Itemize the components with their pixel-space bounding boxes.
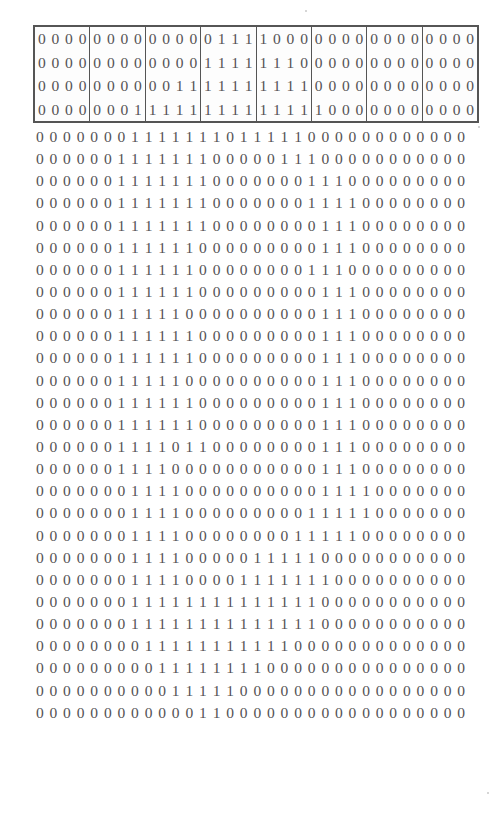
bit-cell: 0 xyxy=(87,480,101,502)
bit-cell: 0 xyxy=(373,126,387,148)
bit-cell: 0 xyxy=(87,680,101,702)
bit-cell: 0 xyxy=(87,303,101,325)
bit-cell: 0 xyxy=(414,414,428,436)
bit-cell: 1 xyxy=(210,680,224,702)
bit-cell: 0 xyxy=(305,480,319,502)
bit-cell: 0 xyxy=(60,680,74,702)
bit-cell: 0 xyxy=(196,281,210,303)
bit-row: 00000011111000000000011100000000 xyxy=(33,370,468,392)
bit-cell: 1 xyxy=(318,259,332,281)
bit-group-7: 0000000000000000 xyxy=(423,27,477,121)
bit-row: 1000 xyxy=(312,98,366,122)
bit-cell: 0 xyxy=(318,148,332,170)
bit-cell: 0 xyxy=(318,680,332,702)
bit-cell: 0 xyxy=(441,148,455,170)
bit-cell: 1 xyxy=(169,680,183,702)
bit-cell: 0 xyxy=(332,635,346,657)
bit-cell: 0 xyxy=(60,325,74,347)
bit-cell: 0 xyxy=(251,325,265,347)
bit-cell: 0 xyxy=(414,480,428,502)
bit-cell: 0 xyxy=(237,525,251,547)
bit-cell: 1 xyxy=(155,170,169,192)
bit-cell: 0 xyxy=(47,392,61,414)
bit-cell: 0 xyxy=(183,458,197,480)
bit-cell: 1 xyxy=(142,613,156,635)
bit-cell: 1 xyxy=(155,215,169,237)
bit-cell: 0 xyxy=(47,215,61,237)
bit-cell: 0 xyxy=(414,635,428,657)
bit-cell: 0 xyxy=(183,502,197,524)
bit-cell: 1 xyxy=(155,325,169,347)
bit-cell: 0 xyxy=(291,680,305,702)
bit-cell: 1 xyxy=(332,281,346,303)
bit-group-5: 0000000000001000 xyxy=(312,27,367,121)
bit-cell: 0 xyxy=(373,281,387,303)
bit-cell: 0 xyxy=(210,525,224,547)
bit-cell: 0 xyxy=(386,657,400,679)
bit-cell: 0 xyxy=(47,680,61,702)
bit-cell: 1 xyxy=(196,702,210,724)
bit-cell: 0 xyxy=(318,547,332,569)
bit-cell: 1 xyxy=(332,215,346,237)
bit-cell: 0 xyxy=(237,702,251,724)
bit-cell: 1 xyxy=(359,502,373,524)
bit-cell: 1 xyxy=(169,126,183,148)
bit-cell: 1 xyxy=(291,148,305,170)
bit-cell: 1 xyxy=(128,259,142,281)
bit-cell: 0 xyxy=(441,192,455,214)
bit-cell: 1 xyxy=(270,98,284,122)
bit-cell: 0 xyxy=(251,215,265,237)
bit-cell: 0 xyxy=(423,98,437,122)
bit-cell: 0 xyxy=(101,591,115,613)
bit-cell: 0 xyxy=(87,613,101,635)
bit-cell: 0 xyxy=(87,126,101,148)
bit-cell: 0 xyxy=(264,480,278,502)
bit-cell: 0 xyxy=(33,347,47,369)
bit-cell: 0 xyxy=(400,525,414,547)
bit-cell: 1 xyxy=(291,569,305,591)
bit-cell: 0 xyxy=(427,635,441,657)
bit-cell: 0 xyxy=(291,370,305,392)
bit-group-1: 0000000000000001 xyxy=(90,27,145,121)
bit-cell: 1 xyxy=(169,325,183,347)
bit-cell: 0 xyxy=(87,281,101,303)
bit-row: 00000001111000011111110000000000 xyxy=(33,569,468,591)
bit-cell: 0 xyxy=(386,170,400,192)
bit-cell: 0 xyxy=(118,74,132,98)
bit-cell: 0 xyxy=(264,392,278,414)
bit-cell: 0 xyxy=(237,392,251,414)
bit-cell: 1 xyxy=(142,525,156,547)
bit-cell: 0 xyxy=(49,98,63,122)
bit-cell: 0 xyxy=(414,392,428,414)
bit-cell: 0 xyxy=(223,126,237,148)
bit-cell: 1 xyxy=(264,569,278,591)
bit-cell: 0 xyxy=(318,635,332,657)
bit-cell: 0 xyxy=(264,347,278,369)
bit-cell: 0 xyxy=(386,525,400,547)
bit-cell: 0 xyxy=(400,458,414,480)
bit-cell: 1 xyxy=(183,215,197,237)
bit-cell: 1 xyxy=(183,392,197,414)
bit-cell: 1 xyxy=(284,74,298,98)
bit-row: 0000 xyxy=(423,51,477,75)
bit-cell: 0 xyxy=(297,51,311,75)
bit-cell: 0 xyxy=(291,657,305,679)
bit-cell: 0 xyxy=(373,215,387,237)
bit-cell: 0 xyxy=(346,680,360,702)
bit-cell: 0 xyxy=(169,458,183,480)
bit-row: 1111 xyxy=(201,98,255,122)
bit-cell: 0 xyxy=(210,325,224,347)
bit-cell: 1 xyxy=(159,98,173,122)
bit-cell: 0 xyxy=(264,281,278,303)
bit-cell: 0 xyxy=(400,569,414,591)
bit-cell: 1 xyxy=(142,325,156,347)
bit-cell: 0 xyxy=(196,392,210,414)
bit-cell: 1 xyxy=(318,480,332,502)
bit-cell: 0 xyxy=(87,259,101,281)
bit-cell: 0 xyxy=(436,98,450,122)
bit-cell: 1 xyxy=(284,98,298,122)
bit-cell: 0 xyxy=(60,657,74,679)
bit-cell: 0 xyxy=(386,547,400,569)
bit-cell: 0 xyxy=(454,370,468,392)
bit-cell: 1 xyxy=(305,613,319,635)
